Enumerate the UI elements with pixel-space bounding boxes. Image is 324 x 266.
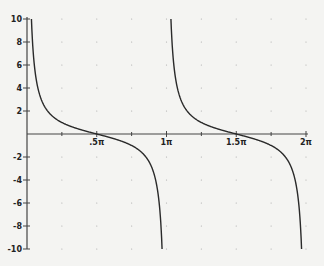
grid-dot	[166, 248, 167, 249]
grid-dot	[236, 225, 237, 226]
y-tick-label: -10	[8, 245, 23, 254]
grid-dot	[96, 87, 97, 88]
grid-dot	[236, 87, 237, 88]
grid-dot	[201, 87, 202, 88]
grid-dot	[131, 110, 132, 111]
grid-dot	[131, 248, 132, 249]
grid-dot	[61, 156, 62, 157]
grid-dot	[271, 156, 272, 157]
grid-dot	[61, 202, 62, 203]
grid-dot	[61, 110, 62, 111]
grid-dot	[236, 156, 237, 157]
grid-dot	[131, 156, 132, 157]
grid-dot	[61, 64, 62, 65]
grid-dot	[305, 179, 306, 180]
grid-dot	[271, 248, 272, 249]
grid-dot	[305, 64, 306, 65]
grid-dot	[166, 41, 167, 42]
grid-dot	[166, 87, 167, 88]
grid-dot	[131, 225, 132, 226]
y-tick-label: -6	[13, 199, 22, 208]
grid-dot	[166, 110, 167, 111]
grid-dot	[61, 179, 62, 180]
grid-dot	[305, 156, 306, 157]
cotangent-chart: 108642-2-4-6-8-10 .5π1π1.5π2π	[0, 0, 324, 266]
grid-dot	[271, 18, 272, 19]
grid-dot	[305, 202, 306, 203]
grid-dot	[96, 110, 97, 111]
grid-dot	[96, 18, 97, 19]
grid-dot	[236, 248, 237, 249]
y-tick-label: 10	[11, 15, 23, 24]
grid-dot	[131, 87, 132, 88]
grid-dot	[61, 225, 62, 226]
grid-dot	[305, 87, 306, 88]
grid-dot	[201, 18, 202, 19]
grid-dot	[305, 248, 306, 249]
grid-dot	[236, 41, 237, 42]
grid-dot	[96, 179, 97, 180]
y-tick-label: 6	[16, 61, 22, 70]
grid-dot	[236, 179, 237, 180]
grid-dot	[271, 64, 272, 65]
grid-dot	[236, 110, 237, 111]
grid-dot	[305, 110, 306, 111]
grid-dot	[271, 179, 272, 180]
grid-dot	[166, 156, 167, 157]
grid-dot	[166, 225, 167, 226]
grid-dot	[201, 225, 202, 226]
grid-dot	[61, 41, 62, 42]
grid-dot	[236, 18, 237, 19]
x-tick-label: 1.5π	[226, 138, 247, 147]
grid-dot	[305, 18, 306, 19]
y-tick-label: -4	[13, 176, 22, 185]
x-tick-label: 2π	[300, 138, 312, 147]
grid-dot	[166, 179, 167, 180]
grid-dot	[201, 202, 202, 203]
grid-dot	[96, 225, 97, 226]
grid-dot	[96, 64, 97, 65]
grid-dot	[305, 41, 306, 42]
x-tick-label: .5π	[89, 138, 104, 147]
grid-dot	[201, 156, 202, 157]
grid-dot	[201, 41, 202, 42]
grid-dot	[201, 64, 202, 65]
grid-dot	[201, 248, 202, 249]
grid-dot	[61, 87, 62, 88]
y-tick-label: -8	[13, 222, 22, 231]
grid-dot	[271, 110, 272, 111]
grid-dot	[201, 110, 202, 111]
grid-dot	[166, 64, 167, 65]
grid-dot	[96, 41, 97, 42]
grid-dot	[61, 248, 62, 249]
y-tick-label: 4	[16, 84, 22, 93]
grid-dot	[166, 202, 167, 203]
grid-dot	[271, 225, 272, 226]
grid-dot	[271, 202, 272, 203]
grid-dot	[271, 41, 272, 42]
y-tick-label: 8	[16, 38, 22, 47]
grid-dot	[305, 225, 306, 226]
grid-dot	[96, 156, 97, 157]
y-tick-label: 2	[16, 107, 22, 116]
grid-dot	[131, 179, 132, 180]
grid-dot	[271, 87, 272, 88]
grid-dot	[96, 248, 97, 249]
grid-dot	[96, 202, 97, 203]
axes	[27, 17, 308, 249]
grid-dot	[131, 41, 132, 42]
x-tick-label: 1π	[161, 138, 173, 147]
grid-dot	[166, 18, 167, 19]
grid-dot	[131, 18, 132, 19]
grid-dot	[131, 202, 132, 203]
grid-dot	[236, 64, 237, 65]
grid-dot	[61, 18, 62, 19]
grid-dot	[236, 202, 237, 203]
grid-dot	[201, 179, 202, 180]
y-tick-label: -2	[13, 153, 22, 162]
grid-dot	[131, 64, 132, 65]
